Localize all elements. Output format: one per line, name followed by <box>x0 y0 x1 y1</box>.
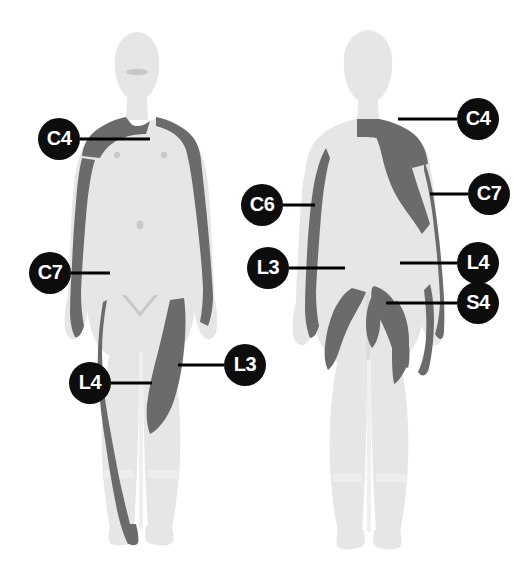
label-c7-anterior-text: C7 <box>38 262 63 282</box>
label-l3-anterior[interactable]: L3 <box>224 344 266 386</box>
label-c4-anterior-text: C4 <box>47 128 72 148</box>
label-l3-posterior[interactable]: L3 <box>247 247 289 289</box>
label-l4-anterior-text: L4 <box>79 372 101 392</box>
label-c6-posterior[interactable]: C6 <box>241 184 283 226</box>
label-c7-posterior[interactable]: C7 <box>468 173 510 215</box>
label-s4-posterior-text: S4 <box>466 292 489 312</box>
label-l3-anterior-text: L3 <box>234 354 256 374</box>
label-s4-posterior[interactable]: S4 <box>457 282 499 324</box>
label-l3-posterior-text: L3 <box>257 257 279 277</box>
dermatome-diagram: C4 C7 L4 L3 C6 L3 C4 C7 L4 S4 <box>0 0 514 563</box>
label-l4-anterior[interactable]: L4 <box>69 362 111 404</box>
label-c6-posterior-text: C6 <box>250 194 275 214</box>
label-c4-posterior-text: C4 <box>466 108 491 128</box>
label-c7-anterior[interactable]: C7 <box>29 252 71 294</box>
label-c4-posterior[interactable]: C4 <box>457 98 499 140</box>
label-c7-posterior-text: C7 <box>477 183 502 203</box>
label-l4-posterior-text: L4 <box>467 252 489 272</box>
label-l4-posterior[interactable]: L4 <box>457 242 499 284</box>
label-c4-anterior[interactable]: C4 <box>38 118 80 160</box>
dermatome-label-layer: C4 C7 L4 L3 C6 L3 C4 C7 L4 S4 <box>0 0 514 563</box>
